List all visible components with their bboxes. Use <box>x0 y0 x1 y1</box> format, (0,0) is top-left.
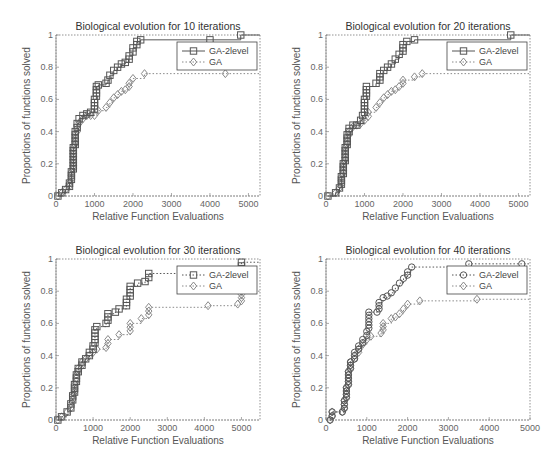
y-tick-label: 0.2 <box>40 159 53 169</box>
y-tick-label: 0.4 <box>310 127 323 137</box>
x-axis-label: Relative Function Evaluations <box>362 211 494 222</box>
x-tick-label: 0 <box>323 423 328 433</box>
y-tick-label: 0.6 <box>40 94 53 104</box>
legend-label: GA-2level <box>209 270 249 280</box>
legend-label: GA <box>479 57 492 67</box>
legend-label: GA-2level <box>479 46 519 56</box>
legend: GA-2levelGA <box>447 42 527 70</box>
y-tick-label: 1 <box>318 254 323 264</box>
y-tick-label: 0.6 <box>40 318 53 328</box>
y-tick-label: 0.2 <box>310 159 323 169</box>
chart-title: Biological evolution for 20 iterations <box>345 20 510 32</box>
legend: GA-2levelGA <box>447 266 527 294</box>
x-tick-label: 2000 <box>123 199 143 209</box>
chart-title: Biological evolution for 40 iterations <box>345 244 510 256</box>
x-tick-label: 1000 <box>357 423 377 433</box>
x-tick-label: 3000 <box>431 199 451 209</box>
x-tick-label: 5000 <box>508 199 528 209</box>
legend-label: GA <box>209 57 222 67</box>
x-tick-label: 2000 <box>120 423 140 433</box>
x-tick-label: 5000 <box>231 423 251 433</box>
subplot-1: Biological evolution for 10 iterations01… <box>21 20 260 222</box>
x-axis-label: Relative Function Evaluations <box>92 435 224 446</box>
y-tick-label: 0.2 <box>40 383 53 393</box>
y-tick-label: 0 <box>48 415 53 425</box>
legend-label: GA-2level <box>209 46 249 56</box>
y-axis-label: Proportions of functions solved <box>291 47 302 184</box>
x-axis-label: Relative Function Evaluations <box>92 211 224 222</box>
y-tick-label: 0.4 <box>40 127 53 137</box>
y-tick-label: 1 <box>318 30 323 40</box>
y-tick-label: 0.2 <box>310 383 323 393</box>
x-tick-label: 4000 <box>194 423 214 433</box>
x-tick-label: 2000 <box>398 423 418 433</box>
x-tick-label: 3000 <box>438 423 458 433</box>
legend: GA-2levelGA <box>177 42 257 70</box>
y-axis-label: Proportions of functions solved <box>291 271 302 408</box>
subplot-4: Biological evolution for 40 iterations01… <box>291 244 540 446</box>
x-tick-label: 1000 <box>354 199 374 209</box>
y-tick-label: 0.8 <box>40 62 53 72</box>
y-tick-label: 1 <box>48 30 53 40</box>
subplot-3: Biological evolution for 30 iterations01… <box>21 244 260 446</box>
legend-label: GA <box>479 281 492 291</box>
y-tick-label: 0.8 <box>310 286 323 296</box>
x-axis-label: Relative Function Evaluations <box>362 435 494 446</box>
chart-title: Biological evolution for 10 iterations <box>75 20 240 32</box>
chart-title: Biological evolution for 30 iterations <box>75 244 240 256</box>
y-tick-label: 0.8 <box>40 286 53 296</box>
x-tick-label: 4000 <box>200 199 220 209</box>
x-tick-label: 1000 <box>84 199 104 209</box>
y-axis-label: Proportions of functions solved <box>21 271 32 408</box>
y-axis-label: Proportions of functions solved <box>21 47 32 184</box>
x-tick-label: 5000 <box>238 199 258 209</box>
y-tick-label: 0.6 <box>310 318 323 328</box>
y-tick-label: 0.4 <box>310 351 323 361</box>
y-tick-label: 0 <box>318 415 323 425</box>
y-tick-label: 1 <box>48 254 53 264</box>
y-tick-label: 0.8 <box>310 62 323 72</box>
y-tick-label: 0.4 <box>40 351 53 361</box>
figure: Biological evolution for 10 iterations01… <box>0 0 554 469</box>
legend-label: GA <box>209 281 222 291</box>
x-tick-label: 5000 <box>520 423 540 433</box>
x-tick-label: 4000 <box>479 423 499 433</box>
x-tick-label: 3000 <box>157 423 177 433</box>
x-tick-label: 4000 <box>470 199 490 209</box>
x-tick-label: 1000 <box>83 423 103 433</box>
y-tick-label: 0 <box>48 191 53 201</box>
legend: GA-2levelGA <box>177 266 257 294</box>
x-tick-label: 3000 <box>161 199 181 209</box>
x-tick-label: 2000 <box>393 199 413 209</box>
legend-label: GA-2level <box>479 270 519 280</box>
y-tick-label: 0 <box>318 191 323 201</box>
subplot-2: Biological evolution for 20 iterations01… <box>291 20 530 222</box>
y-tick-label: 0.6 <box>310 94 323 104</box>
